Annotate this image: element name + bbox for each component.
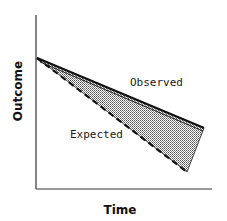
x-axis-title: Time	[104, 203, 137, 217]
expected-label: Expected	[70, 128, 123, 141]
observed-label: Observed	[130, 76, 183, 89]
chart-svg: Observed Expected Time Outcome	[0, 0, 227, 221]
chart-root: Observed Expected Time Outcome	[0, 0, 227, 221]
y-axis-title: Outcome	[11, 61, 25, 121]
